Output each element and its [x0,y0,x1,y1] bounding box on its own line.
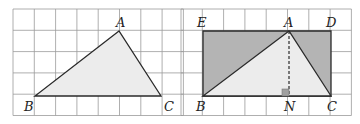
point-label-c: C [327,99,337,114]
point-label-d: D [325,15,337,30]
right-angle-marker [282,89,289,96]
point-label-e: E [196,15,207,30]
point-label-b: B [23,99,34,114]
geometry-diagram: ABC EADBNC [0,0,360,124]
point-label-n: N [283,99,296,114]
point-label-b: B [195,99,206,114]
point-label-a: A [115,15,125,30]
point-label-a: A [283,15,293,30]
point-label-c: C [164,99,174,114]
